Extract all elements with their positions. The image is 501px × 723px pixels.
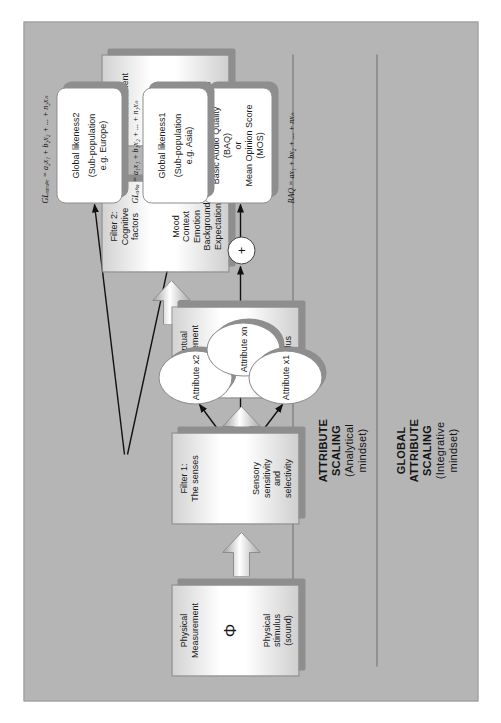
physical-measurement-symbol: Φ [221,624,238,638]
summation-label: + [234,247,248,254]
filter-2-subtitle: Mood Context Emotion Background Expectat… [170,202,223,250]
gl1-line-1: Global likeness1 [156,112,167,178]
physical-measurement-subtitle: Physical stimulus (sound) [261,614,293,648]
physical-measurement-box: Physical Measurement Φ Physical stimulus… [171,585,299,677]
equation-gl-asia: GLₐₛᵢₐ = a₁x₁ + b₁x₂ + ... + n₁xₙ [130,101,139,203]
gl1-line-3: (Sub-population [172,114,183,178]
flow-arrow-1 [222,533,260,577]
attribute-x1-label: Attribute x1 [280,355,290,401]
baq-line-4: Mean Opinion Score [243,104,254,186]
summation-node: + [227,237,255,265]
global-likeness-2-box: Global likeness2 (Sub-population e.g. Eu… [56,88,122,204]
gl2-line-3: (Sub-population [86,114,97,178]
global-likeness-1-box: Global likeness1 (Sub-population e.g. As… [142,88,208,204]
diagram-canvas: Physical Measurement Φ Physical stimulus… [23,22,478,702]
attribute-xn-label: Attribute xn [238,327,248,373]
gl1-line-4: e.g. Asia) [183,127,194,165]
baq-line-2: (BAQ) [221,133,232,158]
attribute-x1-node: Attribute x1 [248,351,322,405]
filter-1-subtitle: Sensory sensitivity and selectivity [250,459,292,498]
diagram-rotation-wrapper: Physical Measurement Φ Physical stimulus… [23,22,478,702]
physical-measurement-title: Physical Measurement [178,603,199,658]
equation-gl-europe: GLₑᵤᵣₒₚₑ = a₂x₁ + b₂x₂ + ... + n₂xₙ [40,96,49,203]
baq-line-3: or [232,142,243,150]
attribute-scaling-label: ATTRIBUTE SCALING (Analytical mindset) [316,351,368,551]
attribute-x2-label: Attribute x2 [190,355,200,401]
filter-1-title: Filter 1: The senses [178,455,199,502]
baq-line-5: (MOS) [254,132,265,159]
equation-baq: BAQ = ax₁ + bx₂ + ... + nxₙ [286,113,295,203]
gl2-line-4: e.g. Europe) [97,121,108,171]
filter-2-title: Filter 2: Cognitive factors [108,208,140,246]
screenshot-root: Physical Measurement Φ Physical stimulus… [0,0,501,723]
gl2-line-1: Global likeness2 [70,112,81,178]
filter-1-box: Filter 1: The senses Sensory sensitivity… [171,433,299,525]
global-attribute-scaling-label: GLOBAL ATTRIBUTE SCALING (Integrative mi… [394,351,459,551]
